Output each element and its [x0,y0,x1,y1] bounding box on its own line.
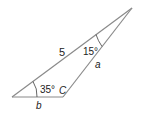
angle-35-label: 35° [40,84,55,95]
angle-arc-35 [33,82,37,98]
triangle-svg: 5 15° a 35° C b [0,0,143,117]
triangle-diagram: 5 15° a 35° C b [0,0,143,117]
side-5 [12,8,132,97]
angle-arc-15 [96,35,102,47]
angle-15-label: 15° [83,46,98,57]
side-a-label: a [95,59,101,70]
vertex-c-label: C [59,85,67,96]
side-b-label: b [36,100,42,111]
side-5-label: 5 [59,46,65,58]
